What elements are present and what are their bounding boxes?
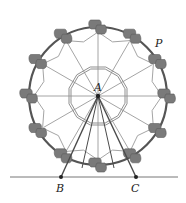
car-body	[130, 34, 141, 43]
point-c	[134, 175, 138, 179]
gondola-car	[158, 89, 176, 103]
gondola-car	[29, 55, 47, 69]
support-brace	[98, 96, 114, 168]
label-base-b: B	[55, 182, 64, 195]
gondola-car	[29, 124, 47, 138]
car-body	[130, 154, 141, 163]
car-body	[96, 163, 107, 172]
gondola-car	[149, 124, 167, 138]
ferris-wheel-diagram: A P B C	[0, 0, 186, 203]
car-body	[61, 34, 72, 43]
gondola-car	[89, 20, 107, 34]
car-body	[165, 94, 176, 103]
diagram-canvas: A P B C	[0, 0, 186, 203]
car-body	[155, 60, 166, 69]
car-body	[36, 60, 47, 69]
point-b	[59, 175, 63, 179]
car-body	[27, 94, 38, 103]
label-center-a: A	[93, 81, 102, 94]
car-body	[96, 25, 107, 34]
gondola-car	[20, 89, 38, 103]
point-a	[96, 94, 100, 98]
car-body	[155, 129, 166, 138]
support-brace	[82, 96, 98, 168]
label-base-c: C	[131, 182, 140, 195]
car-body	[36, 129, 47, 138]
gondola-car	[149, 55, 167, 69]
gondola-car	[89, 158, 107, 172]
label-point-p: P	[154, 37, 163, 50]
